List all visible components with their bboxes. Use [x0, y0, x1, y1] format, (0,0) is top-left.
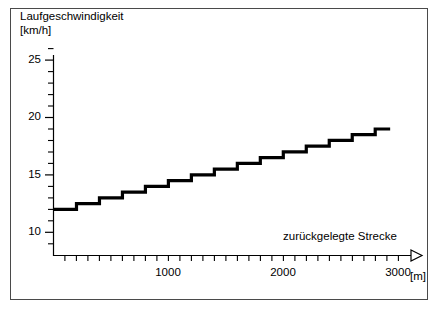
- speed-step-curve: [54, 129, 391, 209]
- y-axis-title: Laufgeschwindigkeit [km/h]: [20, 10, 124, 37]
- y-minor-ticks: [48, 49, 54, 244]
- x-minor-ticks: [65, 256, 399, 262]
- x-tick-label-1000: 1000: [143, 266, 193, 278]
- chart-figure: Laufgeschwindigkeit [km/h] zurückgelegte…: [0, 0, 440, 317]
- y-axis-title-text: Laufgeschwindigkeit [km/h]: [20, 10, 124, 36]
- y-tick-label-25: 25: [17, 53, 41, 65]
- x-axis-title: zurückgelegte Strecke: [283, 230, 397, 244]
- y-tick-label-15: 15: [17, 168, 41, 180]
- y-major-ticks: [45, 60, 54, 232]
- y-tick-label-20: 20: [17, 110, 41, 122]
- x-axis-arrow-icon: [411, 250, 422, 261]
- x-tick-label-2000: 2000: [258, 266, 308, 278]
- y-tick-label-10: 10: [17, 225, 41, 237]
- x-axis-unit-label: [m]: [410, 270, 426, 282]
